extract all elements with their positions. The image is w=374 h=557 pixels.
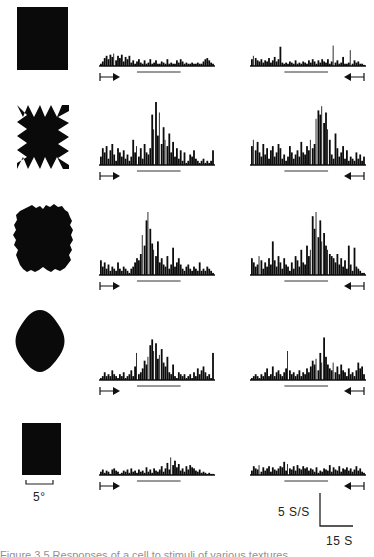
histogram-reverse [249,100,367,185]
figure-caption-partial: Figure 3.5 Responses of a cell to stimul… [0,549,374,557]
arrow-right-icon [100,482,120,490]
histogram-forward [98,320,216,400]
stimulus-jagged-square [15,103,71,171]
histogram-forward [98,30,216,86]
arrow-left-icon [344,73,364,81]
rate-scale-label: 5 S/S [278,505,310,519]
histogram-reverse [249,210,367,295]
stimulus-solid-rectangle [16,6,70,70]
histogram-reverse [249,320,367,400]
histogram-forward [98,210,216,295]
histogram-forward [98,440,216,495]
arrow-right-icon [100,73,120,81]
angle-scale-bar [25,479,55,487]
arrow-left-icon [344,172,364,180]
angle-scale-label: 5° [33,490,45,504]
arrow-right-icon [100,387,120,395]
arrow-right-icon [100,282,120,290]
time-scale-label: 15 S [326,534,353,548]
rate-time-scale-bar [318,492,354,528]
arrow-right-icon [100,172,120,180]
stimulus-textured-blob [10,203,76,275]
histogram-forward [98,100,216,185]
arrow-left-icon [344,482,364,490]
stimulus-small-rectangle [21,422,63,476]
arrow-left-icon [344,387,364,395]
arrow-left-icon [344,282,364,290]
stimulus-rounded-diamond [14,309,66,373]
histogram-reverse [249,440,367,495]
histogram-reverse [249,30,367,86]
